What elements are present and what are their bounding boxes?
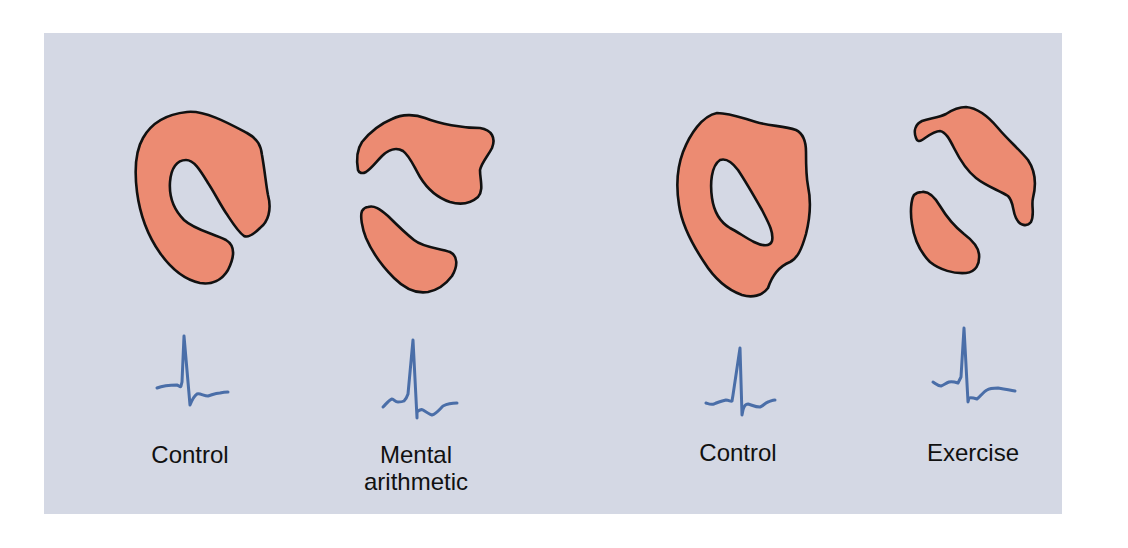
label-mental-line1: Mental (380, 441, 452, 468)
label-control-2: Control (699, 439, 776, 466)
label-control-1: Control (151, 441, 228, 468)
label-exercise: Exercise (927, 439, 1019, 466)
perfusion-ecg-figure: Control Mental arithmetic Control Exerci… (0, 0, 1128, 548)
label-mental-line2: arithmetic (364, 468, 468, 495)
